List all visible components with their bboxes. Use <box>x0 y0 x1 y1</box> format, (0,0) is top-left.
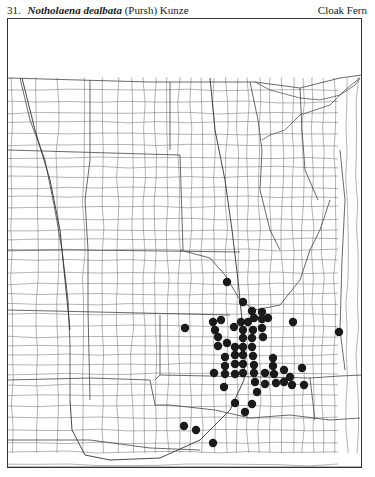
occurrence-dot <box>214 333 222 341</box>
occurrence-dot <box>209 318 217 326</box>
occurrence-dot <box>289 318 297 326</box>
occurrence-dot <box>261 369 269 377</box>
occurrence-dot <box>261 380 269 388</box>
occurrence-dot <box>259 333 267 341</box>
occurrence-dot <box>288 381 296 389</box>
occurrence-dot <box>258 324 266 332</box>
range-line <box>70 78 245 460</box>
occurrence-dot <box>217 316 225 324</box>
distribution-map <box>0 0 375 477</box>
occurrence-dot <box>249 352 257 360</box>
occurrence-dot <box>210 369 218 377</box>
occurrence-dot <box>220 383 228 391</box>
occurrence-dot <box>231 399 239 407</box>
occurrence-dot <box>231 351 239 359</box>
occurrence-dot <box>231 370 239 378</box>
occurrence-dot <box>298 364 306 372</box>
occurrence-dot <box>239 326 247 334</box>
occurrence-dot <box>270 370 278 378</box>
occurrence-dot <box>280 366 288 374</box>
occurrence-dot <box>264 314 272 322</box>
occurrence-dot <box>230 323 238 331</box>
occurrence-dot <box>253 388 261 396</box>
occurrence-dot <box>239 343 247 351</box>
occurrence-dot <box>181 324 189 332</box>
occurrence-dot <box>248 334 256 342</box>
occurrence-dot <box>269 362 277 370</box>
occurrence-dot <box>221 362 229 370</box>
occurrence-dot <box>250 361 258 369</box>
occurrence-dot <box>286 373 294 381</box>
occurrence-dot <box>300 381 308 389</box>
occurrence-dot <box>214 342 222 350</box>
occurrence-dot <box>272 379 280 387</box>
occurrence-dot <box>239 334 247 342</box>
occurrence-dot <box>223 339 231 347</box>
occurrence-dot <box>221 370 229 378</box>
occurrence-dot <box>241 408 249 416</box>
occurrence-dot <box>221 353 229 361</box>
occurrence-dot <box>249 326 257 334</box>
occurrence-dot <box>239 351 247 359</box>
occurrence-dot <box>250 369 258 377</box>
occurrence-dot <box>239 298 247 306</box>
occurrence-dot <box>239 369 247 377</box>
occurrence-dot <box>192 426 200 434</box>
occurrence-dot <box>180 422 188 430</box>
occurrence-dot <box>209 439 217 447</box>
county-grid <box>8 75 362 467</box>
occurrence-dot <box>223 278 231 286</box>
occurrence-dot <box>250 314 258 322</box>
occurrence-dot <box>335 328 343 336</box>
occurrence-dot <box>231 360 239 368</box>
occurrence-dot <box>251 378 259 386</box>
occurrence-dot <box>248 400 256 408</box>
occurrence-dot <box>269 354 277 362</box>
occurrence-dot <box>231 343 239 351</box>
occurrence-dot <box>239 360 247 368</box>
occurrence-dot <box>248 343 256 351</box>
